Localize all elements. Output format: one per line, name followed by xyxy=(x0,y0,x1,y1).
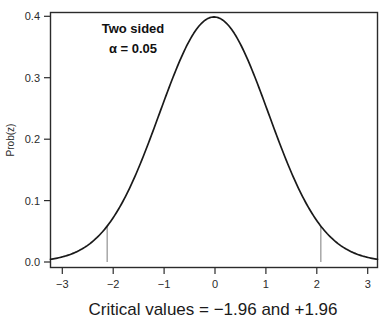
x-tick-label--1: −1 xyxy=(158,278,171,290)
alpha-annotation: α = 0.05 xyxy=(109,41,157,56)
y-tick-label-0.0: 0.0 xyxy=(25,256,40,268)
y-tick-label-0.3: 0.3 xyxy=(25,72,40,84)
x-tick-label-3: 3 xyxy=(365,278,371,290)
y-tick-label-0.4: 0.4 xyxy=(25,10,40,22)
plot-canvas: 0.4 0.3 0.2 0.1 0.0 Prob(z) −3 −2 −1 0 1… xyxy=(0,0,390,323)
y-tick-label-0.2: 0.2 xyxy=(25,133,40,145)
normal-distribution-figure: 0.4 0.3 0.2 0.1 0.0 Prob(z) −3 −2 −1 0 1… xyxy=(0,0,390,323)
two-sided-annotation: Two sided xyxy=(102,21,165,36)
y-tick-label-0.1: 0.1 xyxy=(25,195,40,207)
x-tick-label-1: 1 xyxy=(263,278,269,290)
x-tick-label-0: 0 xyxy=(212,278,218,290)
x-tick-label-2: 2 xyxy=(314,278,320,290)
x-tick-label--3: −3 xyxy=(56,278,69,290)
figure-background xyxy=(0,0,390,323)
y-axis-title: Prob(z) xyxy=(5,124,16,157)
x-tick-label--2: −2 xyxy=(107,278,120,290)
figure-caption: Critical values = −1.96 and +1.96 xyxy=(88,300,337,319)
